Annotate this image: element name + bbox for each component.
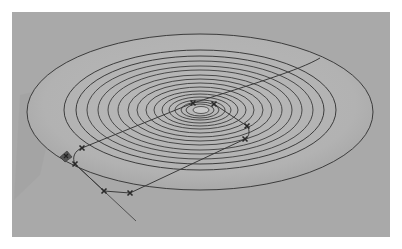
center-hole[interactable] [193, 107, 209, 114]
cad-scene[interactable] [0, 0, 402, 249]
